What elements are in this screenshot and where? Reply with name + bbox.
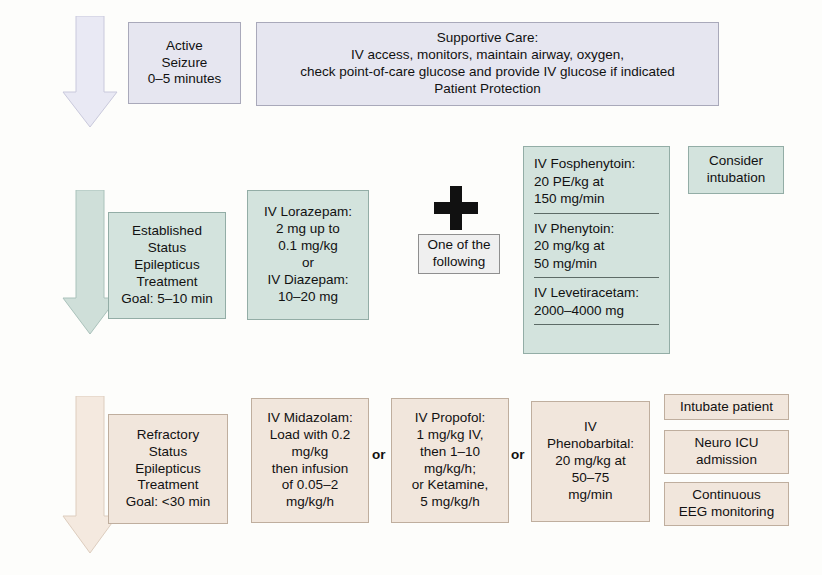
action-line: Continuous [692, 487, 760, 504]
one-of-following-line: One of the [427, 237, 490, 254]
stage-line: 0–5 minutes [148, 71, 222, 88]
drug-line: 20 mg/kg at [534, 237, 659, 255]
consider-intubation-line: Consider [709, 153, 763, 170]
action-box-intubate-patient: Intubate patient [664, 394, 789, 420]
consider-intubation-box: Consider intubation [688, 146, 784, 194]
stage-box-established-status: Established Status Epilepticus Treatment… [108, 212, 226, 319]
drug-option-fosphenytoin: IV Fosphenytoin: 20 PE/kg at 150 mg/min [534, 155, 659, 213]
agent-line: Load with 0.2 [270, 427, 350, 444]
drug-option-phenytoin: IV Phenytoin: 20 mg/kg at 50 mg/min [534, 220, 659, 278]
stage-line: Status [149, 444, 187, 461]
agent-line: mg/kg/h [286, 494, 334, 511]
supportive-care-line: check point-of-care glucose and provide … [300, 64, 674, 81]
agent-box-propofol-ketamine: IV Propofol: 1 mg/kg IV, then 1–10 mg/kg… [391, 398, 509, 523]
divider [534, 213, 659, 214]
stage-line: Status [148, 240, 186, 257]
stage-line: Active [166, 38, 203, 55]
benzo-line: IV Lorazepam: [264, 204, 352, 221]
agent-line: IV Midazolam: [267, 410, 353, 427]
plus-icon [434, 186, 478, 230]
drug-line: 2000–4000 mg [534, 302, 659, 320]
agent-line: of 0.05–2 [282, 477, 338, 494]
drug-line: 50 mg/min [534, 255, 659, 273]
drug-line: 20 PE/kg at [534, 173, 659, 191]
stage-line: Treatment [136, 274, 197, 291]
supportive-care-line: Supportive Care: [437, 30, 538, 47]
stage-line: Goal: <30 min [126, 494, 210, 511]
flowchart-canvas: Active Seizure 0–5 minutes Supportive Ca… [0, 0, 822, 575]
consider-intubation-line: intubation [707, 170, 766, 187]
or-connector-1: or [372, 447, 386, 462]
stage-box-refractory-status: Refractory Status Epilepticus Treatment … [108, 414, 228, 524]
agent-line: 20 mg/kg at [555, 453, 626, 470]
benzo-line: 0.1 mg/kg [278, 238, 337, 255]
benzo-line: 2 mg up to [276, 221, 340, 238]
benzodiazepine-box: IV Lorazepam: 2 mg up to 0.1 mg/kg or IV… [247, 190, 369, 320]
drug-line: IV Levetiracetam: [534, 284, 659, 302]
supportive-care-line: IV access, monitors, maintain airway, ox… [351, 47, 624, 64]
stage-line: Epilepticus [134, 257, 199, 274]
benzo-line: 10–20 mg [278, 289, 338, 306]
benzo-line: or [302, 255, 314, 272]
stage-line: Goal: 5–10 min [121, 291, 213, 308]
agent-line: mg/min [568, 487, 612, 504]
agent-line: IV Propofol: [415, 410, 486, 427]
action-box-neuro-icu-admission: Neuro ICU admission [664, 430, 789, 474]
agent-line: then 1–10 [420, 444, 480, 461]
agent-line: 50–75 [572, 470, 610, 487]
action-line: Intubate patient [680, 399, 773, 416]
stage-line: Seizure [162, 55, 208, 72]
agent-line: mg/kg/h; [424, 461, 476, 478]
agent-box-phenobarbital: IV Phenobarbital: 20 mg/kg at 50–75 mg/m… [531, 401, 650, 522]
agent-line: IV [584, 419, 597, 436]
supportive-care-box: Supportive Care: IV access, monitors, ma… [256, 22, 719, 106]
stage-line: Treatment [137, 477, 198, 494]
agent-line: mg/kg [292, 444, 329, 461]
or-connector-2: or [511, 447, 525, 462]
divider [534, 324, 659, 325]
action-line: Neuro ICU [695, 435, 759, 452]
benzo-line: IV Diazepam: [267, 272, 348, 289]
agent-line: Phenobarbital: [547, 436, 634, 453]
divider [534, 277, 659, 278]
drug-option-levetiracetam: IV Levetiracetam: 2000–4000 mg [534, 284, 659, 324]
supportive-care-line: Patient Protection [434, 81, 541, 98]
stage-line: Established [132, 223, 202, 240]
drug-line: 150 mg/min [534, 190, 659, 208]
second-line-agents-box: IV Fosphenytoin: 20 PE/kg at 150 mg/min … [523, 146, 670, 354]
stage-line: Refractory [137, 427, 199, 444]
drug-line: IV Fosphenytoin: [534, 155, 659, 173]
downward-arrow-acute [62, 16, 118, 128]
action-box-continuous-eeg-monitoring: Continuous EEG monitoring [664, 482, 789, 526]
one-of-the-following-box: One of the following [418, 234, 500, 274]
agent-box-midazolam: IV Midazolam: Load with 0.2 mg/kg then i… [251, 398, 369, 523]
action-line: EEG monitoring [679, 504, 774, 521]
agent-line: 1 mg/kg IV, [416, 427, 483, 444]
action-line: admission [696, 452, 757, 469]
agent-line: 5 mg/kg/h [420, 494, 479, 511]
stage-box-active-seizure: Active Seizure 0–5 minutes [128, 22, 241, 104]
agent-line: or Ketamine, [412, 477, 489, 494]
drug-line: IV Phenytoin: [534, 220, 659, 238]
stage-line: Epilepticus [135, 461, 200, 478]
one-of-following-line: following [433, 254, 486, 271]
agent-line: then infusion [272, 461, 349, 478]
